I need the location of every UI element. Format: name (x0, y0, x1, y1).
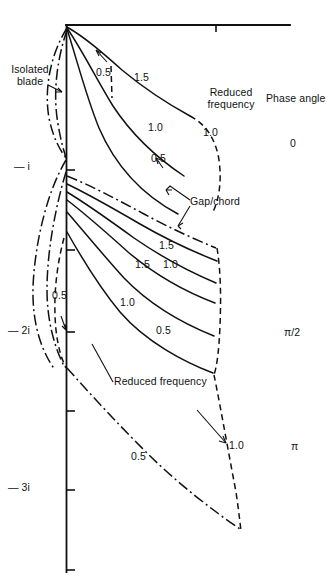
curve-bottom-envelope (214, 375, 241, 530)
phase-angle-value-pi: π (291, 441, 298, 453)
phase-angle-value-pi-2: π/2 (284, 327, 300, 339)
curve-label-mid-1p0-a: 1.0 (163, 259, 178, 271)
y-tick-label-minus-2i: — 2i (8, 325, 30, 337)
curve-label-top-1p0: 1.0 (148, 122, 163, 134)
curve-label-bottom-1p0: 1.0 (229, 440, 244, 452)
curve-mid-gc-0p5-b (67, 232, 213, 373)
curve-left-dashed-0p5 (55, 238, 66, 368)
reduced-frequency-bottom-label: Reduced frequency (114, 376, 207, 388)
gap-chord-label: Gap/chord (190, 196, 240, 208)
curve-top-tick-0p5 (111, 66, 112, 98)
curve-label-mid-1p5-a: 1.5 (159, 240, 174, 252)
isolated-blade-loop-upper (47, 28, 67, 158)
curve-label-bottom-0p5: 0.5 (131, 451, 146, 463)
isolated-blade-label-line2: blade (3, 76, 57, 88)
curve-top-gc-1p5 (67, 27, 190, 116)
leader-bottom-rf-left (92, 344, 113, 382)
reduced-frequency-top-line1: Reduced (198, 87, 264, 99)
curve-mid-envelope (214, 248, 221, 375)
y-tick-label-minus-i: — i (14, 161, 30, 173)
leader-gapchord-upper (166, 186, 190, 200)
figure-canvas: — i — 2i — 3i Isolated blade Reduced fre… (0, 0, 333, 578)
curve-label-top-1p5: 1.5 (134, 72, 149, 84)
curve-label-top-0p5-lower: 0.5 (151, 153, 166, 165)
reduced-frequency-top-line2: frequency (198, 99, 264, 111)
curve-label-top-envelope-1p0: 1.0 (203, 127, 218, 139)
curve-label-top-0p5: 0.5 (96, 67, 111, 79)
phase-angle-value-0: 0 (290, 138, 296, 150)
curve-label-left-0p5: 0.5 (52, 290, 67, 302)
isolated-blade-label-line1: Isolated (3, 64, 57, 76)
curve-label-mid-0p5-a: 0.5 (156, 325, 171, 337)
isolated-blade-loop-upper-inner (56, 30, 67, 160)
leader-gapchord-upper-arrow (166, 190, 172, 195)
isolated-blade-loop-lower-inner (47, 172, 66, 366)
phase-angle-title: Phase angle (266, 93, 325, 105)
curve-bottom-rf-0p5 (67, 368, 240, 529)
curve-mid-gc-0p5 (67, 212, 214, 336)
curve-label-mid-1p5-b: 1.5 (135, 259, 150, 271)
leader-gapchord-lower (178, 206, 190, 226)
curve-label-mid-1p0-b: 1.0 (120, 297, 135, 309)
y-tick-label-minus-3i: — 3i (8, 482, 30, 494)
